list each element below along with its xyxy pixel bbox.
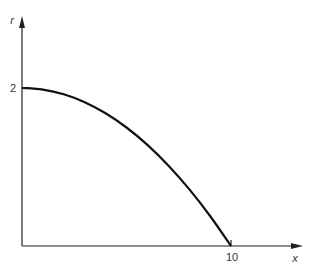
curve-r-of-x <box>22 88 231 246</box>
x-axis-label: x <box>291 252 298 264</box>
y-axis-arrow-icon <box>19 16 25 28</box>
chart: r 2 10 x <box>0 0 315 276</box>
x-axis-arrow-icon <box>291 243 303 249</box>
y-tick-label: 2 <box>10 82 16 94</box>
y-axis-label: r <box>10 14 15 26</box>
x-tick-label: 10 <box>226 251 238 263</box>
